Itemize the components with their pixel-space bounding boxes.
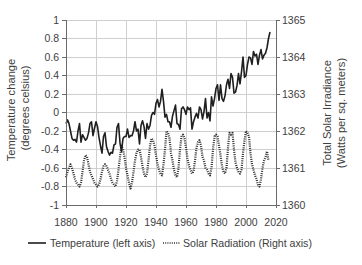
right-tick-label: 1363 (282, 88, 306, 100)
left-tick-label: -1 (50, 199, 59, 211)
left-tick-label: -0.8 (41, 180, 59, 192)
left-tick-label: 0.8 (44, 32, 59, 44)
x-tick-label: 1880 (54, 216, 78, 228)
left-tick-label: -0.4 (41, 143, 59, 155)
right-tick-label: 1364 (282, 51, 306, 63)
left-tick-label: 0 (53, 106, 59, 118)
right-axis-title-line-2: (Watts per sq. meters) (335, 58, 347, 169)
right-tick-label: 1365 (282, 14, 306, 26)
plot-series (66, 32, 270, 188)
left-tick-label: 0.6 (44, 51, 59, 63)
right-axis-title-line-1: Total Solar Irradiance (321, 60, 333, 166)
left-tick-label: -0.2 (41, 125, 59, 137)
left-axis-title: Temperature change (degrees celsius) (5, 59, 31, 162)
left-tick-label: -0.6 (41, 162, 59, 174)
x-tick-label: 1920 (114, 216, 138, 228)
x-tick-label: 2020 (264, 216, 288, 228)
left-axis-title-line-1: Temperature change (5, 59, 17, 162)
x-tick-label: 1960 (174, 216, 198, 228)
dual-axis-line-chart: 10.80.60.40.20-0.2-0.4-0.6-0.8-113651364… (0, 0, 362, 265)
legend-solar-label: Solar Radiation (Right axis) (183, 237, 312, 249)
left-axis-title-line-2: (degrees celsius) (19, 65, 31, 150)
x-tick-label: 1980 (204, 216, 228, 228)
right-tick-label: 1360 (282, 199, 306, 211)
right-axis-title: Total Solar Irradiance (Watts per sq. me… (321, 58, 347, 169)
legend: Temperature (left axis) Solar Radiation … (28, 237, 312, 249)
x-tick-label: 2000 (234, 216, 258, 228)
x-tick-label: 1900 (84, 216, 108, 228)
legend-item-solar: Solar Radiation (Right axis) (163, 237, 312, 249)
legend-temperature-label: Temperature (left axis) (50, 237, 155, 249)
left-tick-label: 0.4 (44, 69, 59, 81)
gridlines (66, 20, 276, 205)
left-tick-label: 0.2 (44, 88, 59, 100)
left-tick-label: 1 (53, 14, 59, 26)
right-tick-label: 1362 (282, 125, 306, 137)
right-tick-label: 1361 (282, 162, 306, 174)
legend-item-temperature: Temperature (left axis) (28, 237, 155, 249)
x-tick-label: 1940 (144, 216, 168, 228)
tick-marks-and-labels: 10.80.60.40.20-0.2-0.4-0.6-0.8-113651364… (41, 14, 306, 228)
chart-figure: 10.80.60.40.20-0.2-0.4-0.6-0.8-113651364… (0, 0, 362, 265)
